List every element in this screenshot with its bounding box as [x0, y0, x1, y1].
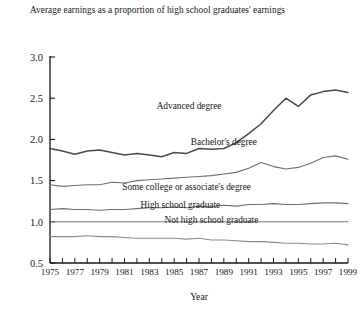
earnings-chart-figure: Average earnings as a proportion of high… — [0, 0, 363, 311]
x-tick-label: 1977 — [66, 267, 85, 277]
x-tick-label: 1993 — [264, 267, 283, 277]
series-label-3: Some college or associate's degree — [122, 182, 251, 192]
y-tick-label: 1.0 — [30, 217, 43, 228]
x-tick-label: 1995 — [289, 267, 308, 277]
series-label-1: Advanced degree — [157, 101, 222, 111]
y-tick-label: 3.0 — [30, 52, 43, 63]
series-labels: Advanced degreeBachelor's degreeSome col… — [122, 101, 258, 226]
series-line-5 — [50, 236, 348, 245]
x-tick-label: 1989 — [215, 267, 234, 277]
x-tick-label: 1999 — [339, 267, 358, 277]
x-tick-label: 1975 — [41, 267, 60, 277]
x-tick-label: 1987 — [190, 267, 209, 277]
x-tick-label: 1985 — [165, 267, 184, 277]
x-axis: 1975197719791981198319851987198919911993… — [41, 258, 358, 277]
x-tick-label: 1997 — [314, 267, 333, 277]
series-label-5: Not high school graduate — [165, 215, 259, 225]
x-tick-label: 1981 — [115, 267, 134, 277]
series-label-4: High school graduate — [141, 200, 221, 210]
x-tick-label: 1983 — [140, 267, 159, 277]
x-axis-title: Year — [190, 291, 208, 302]
x-tick-label: 1979 — [90, 267, 109, 277]
y-tick-label: 1.5 — [30, 175, 43, 186]
y-tick-label: 2.0 — [30, 134, 43, 145]
chart-plot-area: 0.51.01.52.02.53.0 197519771979198119831… — [0, 0, 363, 311]
series-label-2: Bachelor's degree — [191, 137, 257, 147]
x-tick-label: 1991 — [239, 267, 258, 277]
y-tick-label: 2.5 — [30, 93, 43, 104]
